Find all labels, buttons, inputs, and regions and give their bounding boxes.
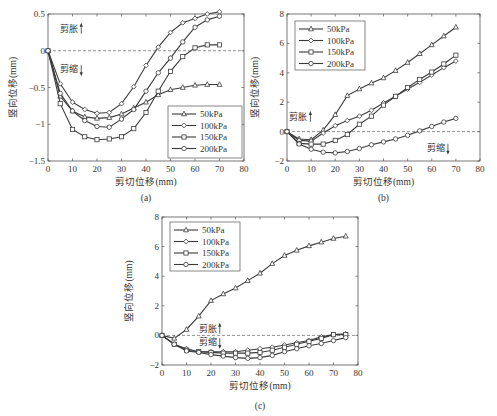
chart-c-plot: 01020304050607080−202468剪切位移(mm)(c)竖向位移(… bbox=[120, 204, 380, 416]
annotation-contraction: 剪缩 bbox=[199, 336, 217, 347]
chart-panel-b: 01020304050607080−202468剪切位移(mm)(b)竖向位移(… bbox=[248, 0, 497, 208]
square-marker bbox=[95, 138, 99, 142]
circle-marker bbox=[217, 14, 221, 18]
arrow-up-head-icon bbox=[218, 323, 221, 327]
legend-circle-icon bbox=[184, 262, 188, 266]
diamond-marker bbox=[205, 12, 210, 17]
x-tick-label: 0 bbox=[160, 368, 165, 378]
legend-label: 150kPa bbox=[327, 47, 354, 57]
legend-label: 150kPa bbox=[202, 248, 229, 258]
square-marker bbox=[83, 135, 87, 139]
circle-marker bbox=[321, 150, 325, 154]
x-tick-label: 60 bbox=[427, 164, 437, 174]
circle-marker bbox=[209, 352, 213, 356]
diamond-marker bbox=[95, 111, 100, 116]
circle-marker bbox=[246, 356, 250, 360]
y-tick-label: −1.5 bbox=[29, 156, 46, 166]
chart-caption: (a) bbox=[141, 193, 152, 204]
square-marker bbox=[233, 351, 237, 355]
legend-label: 100kPa bbox=[327, 36, 354, 46]
square-marker bbox=[156, 89, 160, 93]
y-tick-label: −2 bbox=[149, 360, 159, 370]
circle-marker bbox=[357, 146, 361, 150]
square-marker bbox=[270, 348, 274, 352]
y-tick-label: −2 bbox=[274, 156, 284, 166]
x-tick-label: 40 bbox=[142, 164, 152, 174]
legend-label: 100kPa bbox=[200, 121, 227, 131]
triangle-marker bbox=[429, 42, 434, 47]
diamond-marker bbox=[345, 118, 350, 123]
circle-marker bbox=[193, 25, 197, 29]
square-marker bbox=[357, 122, 361, 126]
square-marker bbox=[132, 127, 136, 131]
chart-b-plot: 01020304050607080−202468剪切位移(mm)(b)竖向位移(… bbox=[248, 0, 497, 208]
square-marker bbox=[295, 342, 299, 346]
arrow-up-head-icon bbox=[309, 111, 312, 115]
square-marker bbox=[321, 142, 325, 146]
chart-caption: (b) bbox=[378, 193, 389, 204]
y-tick-label: 6 bbox=[155, 242, 160, 252]
x-tick-label: 60 bbox=[191, 164, 201, 174]
diamond-marker bbox=[357, 114, 362, 119]
circle-marker bbox=[285, 129, 289, 133]
square-marker bbox=[345, 132, 349, 136]
annotation-contraction: 剪缩 bbox=[60, 63, 78, 74]
diamond-marker bbox=[369, 108, 374, 113]
chart-caption: (c) bbox=[255, 401, 266, 412]
triangle-marker bbox=[405, 60, 410, 65]
x-tick-label: 10 bbox=[68, 164, 78, 174]
annotation-dilation: 剪胀 bbox=[289, 111, 307, 122]
square-marker bbox=[70, 127, 74, 131]
circle-marker bbox=[119, 117, 123, 121]
legend-square-icon bbox=[184, 251, 188, 255]
circle-marker bbox=[181, 40, 185, 44]
x-tick-label: 70 bbox=[329, 368, 339, 378]
y-axis-label: 竖向位移(mm) bbox=[249, 57, 261, 118]
legend-label: 150kPa bbox=[200, 132, 227, 142]
legend-label: 50kPa bbox=[327, 24, 350, 34]
y-tick-label: 6 bbox=[280, 38, 285, 48]
arrow-down-head-icon bbox=[446, 151, 449, 155]
circle-marker bbox=[454, 116, 458, 120]
legend-label: 200kPa bbox=[202, 260, 229, 270]
x-tick-label: 60 bbox=[305, 368, 315, 378]
y-tick-label: −1 bbox=[35, 119, 45, 129]
annotation-contraction: 剪缩 bbox=[427, 142, 445, 153]
legend-square-icon bbox=[309, 50, 313, 54]
chart-a-plot: 01020304050607080−1.5−1−0.500.5剪切位移(mm)(… bbox=[0, 0, 250, 208]
y-axis-label: 竖向位移(mm) bbox=[123, 260, 135, 321]
legend-label: 50kPa bbox=[200, 109, 223, 119]
legend-label: 50kPa bbox=[202, 225, 225, 235]
legend-square-icon bbox=[182, 135, 186, 139]
circle-marker bbox=[297, 142, 301, 146]
square-marker bbox=[144, 110, 148, 114]
square-marker bbox=[454, 53, 458, 57]
arrow-up-head-icon bbox=[80, 23, 83, 27]
square-marker bbox=[307, 339, 311, 343]
square-marker bbox=[282, 345, 286, 349]
x-tick-label: 50 bbox=[166, 164, 176, 174]
circle-marker bbox=[83, 118, 87, 122]
chart-panel-c: 01020304050607080−202468剪切位移(mm)(c)竖向位移(… bbox=[120, 204, 380, 416]
square-marker bbox=[406, 85, 410, 89]
x-tick-label: 70 bbox=[215, 164, 225, 174]
x-axis-label: 剪切位移(mm) bbox=[115, 176, 176, 188]
circle-marker bbox=[345, 149, 349, 153]
circle-marker bbox=[156, 71, 160, 75]
square-marker bbox=[418, 77, 422, 81]
diamond-marker bbox=[193, 16, 198, 21]
legend-label: 200kPa bbox=[200, 144, 227, 154]
diamond-marker bbox=[82, 107, 87, 112]
circle-marker bbox=[70, 109, 74, 113]
circle-marker bbox=[331, 338, 335, 342]
square-marker bbox=[430, 70, 434, 74]
circle-marker bbox=[46, 49, 50, 53]
diamond-marker bbox=[217, 9, 222, 14]
x-axis-label: 剪切位移(mm) bbox=[229, 380, 290, 392]
y-tick-label: −0.5 bbox=[29, 83, 46, 93]
y-tick-label: 8 bbox=[155, 212, 160, 222]
x-tick-label: 10 bbox=[182, 368, 192, 378]
square-marker bbox=[319, 336, 323, 340]
x-tick-label: 30 bbox=[231, 368, 241, 378]
circle-marker bbox=[442, 120, 446, 124]
